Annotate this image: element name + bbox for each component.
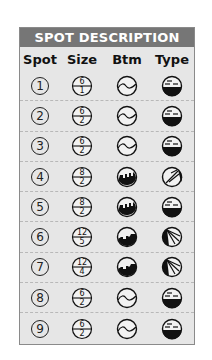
type-half-filled-lines-icon xyxy=(150,75,194,97)
svg-text:1: 1 xyxy=(79,86,84,95)
spot-row: 582 xyxy=(20,192,194,222)
spot-number: 8 xyxy=(31,289,49,307)
spot-number: 6 xyxy=(31,228,49,246)
svg-text:12: 12 xyxy=(77,259,87,268)
spot-number: 4 xyxy=(31,168,49,186)
spot-list: 16126236248258261257124862962 xyxy=(20,71,194,344)
spot-description-card: SPOT DESCRIPTION Spot Size Btm Type 1612… xyxy=(19,27,195,345)
spot-number: 9 xyxy=(31,320,49,338)
bottom-wave-icon xyxy=(104,318,150,340)
svg-text:6: 6 xyxy=(79,107,84,116)
bottom-wave-icon xyxy=(104,287,150,309)
svg-text:6: 6 xyxy=(79,320,84,329)
bottom-rocky-ledge-icon xyxy=(104,256,150,278)
col-type: Type xyxy=(150,52,194,67)
size-icon: 62 xyxy=(60,287,104,309)
col-size: Size xyxy=(60,52,104,67)
svg-text:8: 8 xyxy=(79,198,84,207)
spot-row: 161 xyxy=(20,71,194,101)
svg-text:2: 2 xyxy=(79,147,84,156)
col-bottom: Btm xyxy=(104,52,150,67)
bottom-wave-icon xyxy=(104,105,150,127)
spot-number: 3 xyxy=(31,137,49,155)
size-icon: 62 xyxy=(60,318,104,340)
svg-text:8: 8 xyxy=(79,168,84,177)
size-icon: 82 xyxy=(60,166,104,188)
size-icon: 125 xyxy=(60,226,104,248)
bottom-rocky-ledge-icon xyxy=(104,226,150,248)
spot-number: 2 xyxy=(31,107,49,125)
card-title: SPOT DESCRIPTION xyxy=(20,28,194,47)
size-icon: 62 xyxy=(60,135,104,157)
bottom-wave-icon xyxy=(104,135,150,157)
svg-text:2: 2 xyxy=(79,298,84,307)
spot-row: 962 xyxy=(20,313,194,343)
spot-number: 5 xyxy=(31,198,49,216)
svg-text:2: 2 xyxy=(79,329,84,338)
type-half-filled-lines-icon xyxy=(150,287,194,309)
bottom-rocky-icon xyxy=(104,196,150,218)
svg-text:6: 6 xyxy=(79,77,84,86)
type-half-filled-lines-icon xyxy=(150,318,194,340)
spot-row: 862 xyxy=(20,283,194,313)
type-half-filled-lines-icon xyxy=(150,105,194,127)
spot-row: 262 xyxy=(20,101,194,131)
svg-text:2: 2 xyxy=(79,116,84,125)
svg-text:6: 6 xyxy=(79,289,84,298)
spot-row: 7124 xyxy=(20,253,194,283)
type-diagonal-rays-icon xyxy=(150,166,194,188)
svg-text:2: 2 xyxy=(79,177,84,186)
type-side-rays-icon xyxy=(150,226,194,248)
type-half-filled-lines-icon xyxy=(150,135,194,157)
bottom-wave-icon xyxy=(104,75,150,97)
svg-text:12: 12 xyxy=(77,228,87,237)
svg-text:4: 4 xyxy=(79,268,84,277)
size-icon: 82 xyxy=(60,196,104,218)
spot-row: 482 xyxy=(20,162,194,192)
column-headers: Spot Size Btm Type xyxy=(20,47,194,71)
bottom-rocky-icon xyxy=(104,166,150,188)
spot-row: 362 xyxy=(20,132,194,162)
col-spot: Spot xyxy=(20,52,60,67)
svg-text:2: 2 xyxy=(79,207,84,216)
type-side-rays-icon xyxy=(150,256,194,278)
svg-text:5: 5 xyxy=(79,237,84,246)
size-icon: 61 xyxy=(60,75,104,97)
type-half-filled-lines-icon xyxy=(150,196,194,218)
size-icon: 62 xyxy=(60,105,104,127)
spot-number: 1 xyxy=(31,77,49,95)
size-icon: 124 xyxy=(60,256,104,278)
spot-row: 6125 xyxy=(20,222,194,252)
svg-text:6: 6 xyxy=(79,138,84,147)
spot-number: 7 xyxy=(31,258,49,276)
